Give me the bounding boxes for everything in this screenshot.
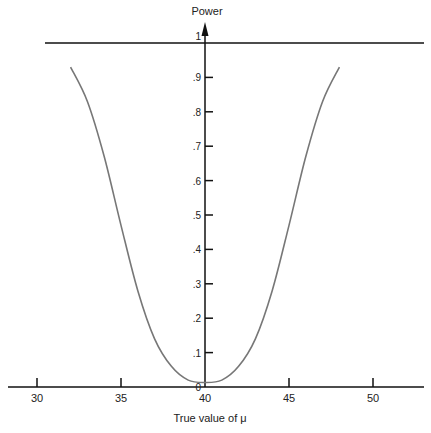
y-tick-label: 1 (195, 31, 201, 42)
x-tick-label: 45 (283, 392, 295, 404)
x-axis-label: True value of μ (173, 412, 246, 424)
axes: 30354045500.1.2.3.4.5.6.7.8.91 (8, 22, 424, 404)
x-tick-label: 50 (367, 392, 379, 404)
y-tick-label: .9 (193, 72, 202, 83)
y-tick-label: .6 (193, 176, 202, 187)
y-tick-label: .7 (193, 141, 202, 152)
y-tick-label: .8 (193, 107, 202, 118)
y-axis-label: Power (191, 5, 223, 17)
x-tick-label: 40 (199, 392, 211, 404)
y-tick-label: .2 (193, 313, 202, 324)
y-tick-label: .1 (193, 348, 202, 359)
y-tick-label: 0 (195, 382, 201, 393)
y-tick-label: .5 (193, 210, 202, 221)
x-tick-label: 30 (31, 392, 43, 404)
y-tick-label: .3 (193, 279, 202, 290)
power-curve-chart: 30354045500.1.2.3.4.5.6.7.8.91 Power Tru… (0, 0, 431, 433)
chart-canvas: 30354045500.1.2.3.4.5.6.7.8.91 Power Tru… (0, 0, 431, 433)
y-tick-label: .4 (193, 244, 202, 255)
x-tick-label: 35 (115, 392, 127, 404)
y-axis-arrow-icon (202, 22, 209, 36)
